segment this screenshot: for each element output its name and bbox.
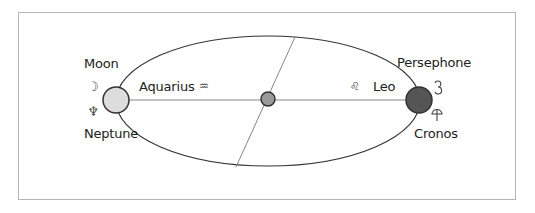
cronos-label: Cronos	[414, 127, 458, 141]
moon-label: Moon	[84, 57, 119, 71]
persephone-glyph-icon	[435, 81, 442, 94]
aquarius-label: Aquarius	[139, 80, 195, 94]
orbit-diagram	[0, 0, 535, 213]
right-body-circle	[406, 87, 432, 113]
aquarius-glyph-icon: ♒	[196, 80, 212, 94]
left-body-circle	[103, 87, 129, 113]
leo-glyph-icon: ♌	[347, 80, 363, 94]
neptune-glyph-icon: ♆	[85, 105, 101, 119]
neptune-label: Neptune	[84, 127, 138, 141]
cronos-glyph-icon	[432, 109, 443, 121]
center-body-circle	[261, 92, 275, 106]
persephone-label: Persephone	[397, 56, 471, 70]
moon-glyph-icon: ☽	[85, 80, 101, 94]
leo-label: Leo	[373, 80, 395, 94]
